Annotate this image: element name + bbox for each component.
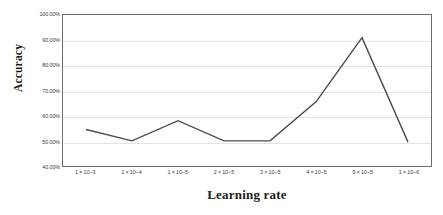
x-axis-tick-label: 5 × 10−5	[352, 169, 372, 175]
x-axis-tick-labels: 1 × 10−31 × 10−41 × 10−52 × 10−53 × 10−5…	[62, 169, 432, 181]
y-axis-tick-label: 100.00%	[18, 11, 60, 17]
line-chart: Accuracy 40.00%50.00%60.00%70.00%80.00%9…	[0, 0, 443, 215]
y-axis-tick-label: 40.00%	[18, 164, 60, 170]
x-axis-tick-label: 1 × 10−3	[75, 169, 95, 175]
plot-area	[62, 14, 432, 167]
x-axis-title: Learning rate	[62, 187, 432, 203]
x-axis-tick-label: 4 × 10−5	[306, 169, 326, 175]
y-axis-tick-label: 70.00%	[18, 88, 60, 94]
series-line-accuracy	[86, 38, 408, 142]
x-axis-tick-label: 1 × 10−5	[167, 169, 187, 175]
y-axis-tick-label: 80.00%	[18, 62, 60, 68]
x-axis-tick-label: 3 × 10−5	[260, 169, 280, 175]
y-axis-tick-label: 60.00%	[18, 113, 60, 119]
y-axis-tick-labels: 40.00%50.00%60.00%70.00%80.00%90.00%100.…	[18, 14, 60, 167]
x-axis-tick-label: 1 × 10−6	[399, 169, 419, 175]
y-axis-tick-label: 50.00%	[18, 139, 60, 145]
series-accuracy	[63, 15, 431, 166]
y-axis-tick-label: 90.00%	[18, 37, 60, 43]
x-axis-tick-label: 1 × 10−4	[121, 169, 141, 175]
x-axis-tick-label: 2 × 10−5	[214, 169, 234, 175]
